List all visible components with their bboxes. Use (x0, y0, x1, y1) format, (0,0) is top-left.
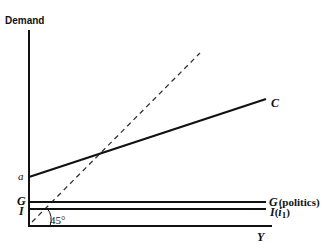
government-label-suffix: (politics) (279, 196, 320, 209)
keynesian-cross-diagram: Demand a G I 45° C G(politics) I(i1) Y (0, 0, 330, 252)
consumption-line (29, 99, 266, 177)
investment-label-close: ) (286, 206, 290, 219)
x-axis-label: Y (257, 230, 266, 244)
angle-label: 45° (50, 214, 65, 226)
y-axis-label: Demand (5, 15, 44, 26)
intercept-label: a (18, 170, 24, 182)
investment-label: I(i1) (269, 205, 290, 220)
consumption-label: C (271, 96, 280, 110)
45-degree-line (32, 53, 200, 222)
